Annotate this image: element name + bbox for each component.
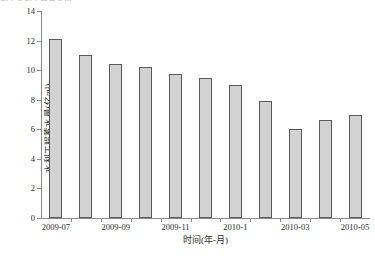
x-tick-label: 2010-03	[281, 223, 309, 232]
y-tick-mark	[37, 218, 41, 219]
x-tick-label: 2009-11	[162, 223, 190, 232]
bar	[199, 78, 212, 218]
x-tick-label: 2010-05	[341, 223, 369, 232]
y-tick-label: 4	[31, 155, 35, 164]
x-tick-mark	[310, 218, 311, 222]
bar	[169, 74, 182, 218]
bar	[289, 129, 302, 218]
y-tick-label: 12	[27, 36, 36, 45]
x-tick-mark	[131, 218, 132, 222]
y-tick-mark	[37, 100, 41, 101]
figure-caption-cutoff: 图 1 水利工程蓄水量	[0, 0, 72, 1]
x-tick-mark	[191, 218, 192, 222]
bar	[49, 39, 62, 218]
y-tick-label: 2	[31, 184, 35, 193]
bar	[79, 55, 92, 218]
y-tick-mark	[37, 41, 41, 42]
y-tick-label: 10	[27, 66, 36, 75]
x-tick-mark	[220, 218, 221, 222]
x-tick-label: 2009-09	[102, 223, 130, 232]
bar	[109, 64, 122, 218]
y-tick-mark	[37, 11, 41, 12]
y-tick-mark	[37, 159, 41, 160]
y-tick-mark	[37, 70, 41, 71]
x-tick-label: 2010-1	[223, 223, 247, 232]
chart-figure: 图 1 水利工程蓄水量 水利工程蓄水量(亿m³) 02468101214 200…	[0, 0, 375, 256]
y-tick-label: 6	[31, 125, 35, 134]
bar	[229, 85, 242, 218]
x-tick-mark	[250, 218, 251, 222]
x-tick-label: 2009-07	[42, 223, 70, 232]
plot-area: 02468101214 2009-072009-092009-112010-12…	[41, 11, 370, 218]
y-tick-label: 0	[31, 214, 35, 223]
y-tick-mark	[37, 129, 41, 130]
bar	[139, 67, 152, 218]
bar	[349, 115, 362, 219]
y-tick-label: 8	[31, 95, 35, 104]
bar	[319, 120, 332, 218]
y-tick-label: 14	[27, 7, 36, 16]
x-axis-title: 时间(年-月)	[41, 233, 370, 246]
x-tick-mark	[71, 218, 72, 222]
y-axis-line	[41, 11, 42, 218]
bar	[259, 101, 272, 218]
x-axis-line	[41, 218, 370, 219]
y-tick-mark	[37, 188, 41, 189]
